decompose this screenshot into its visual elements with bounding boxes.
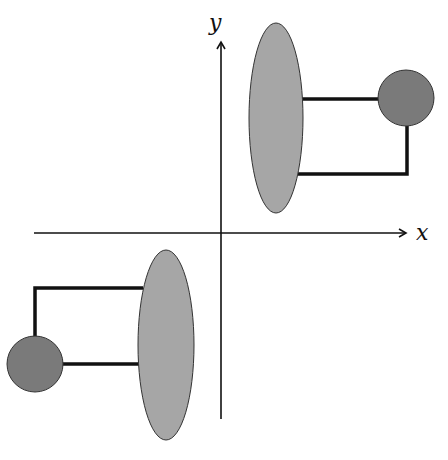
diagram-canvas: x y [0, 0, 448, 460]
top-right-ellipse [249, 23, 303, 213]
bottom-left-circle [7, 336, 63, 392]
top-right-circle [378, 70, 434, 126]
x-axis-label: x [416, 220, 429, 245]
bottom-left-connector-upper [35, 288, 143, 337]
y-axis-label: y [208, 10, 222, 35]
coordinate-diagram: x y [0, 0, 448, 460]
bottom-left-ellipse [138, 250, 194, 440]
top-right-connector-lower [298, 126, 407, 174]
